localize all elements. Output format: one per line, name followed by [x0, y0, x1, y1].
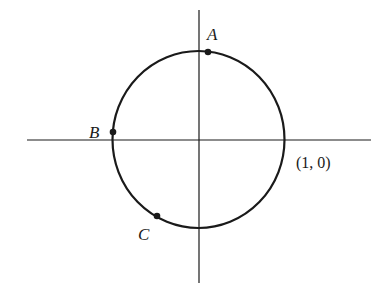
point-b-label: B — [89, 123, 100, 142]
point-c-label: C — [138, 225, 150, 244]
unit-circle-diagram: A B C (1, 0) — [0, 0, 389, 283]
coordinate-label-1-0: (1, 0) — [296, 154, 331, 172]
point-a-label: A — [206, 25, 218, 44]
diagram-svg: A B C (1, 0) — [0, 0, 389, 283]
point-a-marker — [205, 49, 212, 56]
point-c-marker — [154, 213, 161, 220]
point-b-marker — [110, 129, 117, 136]
